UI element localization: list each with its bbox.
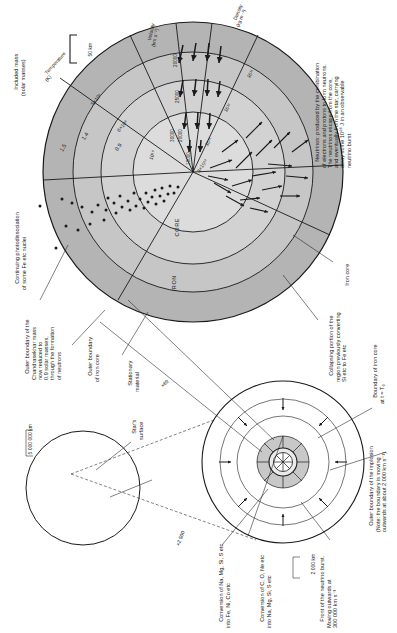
annotation-collapsing-portion: Collapsing portion of the region previou… — [322, 312, 353, 382]
annotation-outer-boundary-iron-core: Outer boundary of iron core — [81, 337, 106, 382]
label-stars-surface: Star's surface — [125, 420, 144, 440]
velocity-value-1: 25000 — [170, 90, 180, 108]
label-boundary-iron-core-t0: Boundary of iron core at t = T₀ — [366, 344, 385, 404]
star-scale-label: 5 000 000 km — [22, 424, 33, 460]
velocity-value-3: 20000 — [173, 129, 183, 147]
annotation-iron-core: Iron core — [338, 264, 357, 292]
label-conversion-na-mg-si: Conversion of Na, Mg, Si, S etc into Fe,… — [212, 544, 231, 628]
region-label-iron: IRON — [165, 275, 178, 300]
label-neutrino-burst-front: Front of the neutrino burst. Moving outw… — [313, 556, 338, 628]
region-label-core: CORE — [168, 218, 181, 245]
annotation-chandrasekhar: Outer boundary of the Chandrasekhar mass… — [18, 319, 68, 380]
annotation-photodissociation: Continuing photodissociation of some Fe … — [8, 212, 33, 290]
star-surface-circle — [26, 431, 140, 545]
scale-label-50km: 50 km — [82, 43, 99, 62]
velocity-value-0: 20000 — [168, 54, 178, 72]
label-conversion-c-o-ne: Conversion of C, O, Ne etc into Na, Mg, … — [253, 555, 272, 628]
label-stationary-material: Stationary material — [121, 361, 140, 392]
label-outer-boundary-implosion: Outer boundary of the implosion (Note: t… — [362, 446, 387, 532]
axis-label-included-mass: Included mass (solar masses) — [7, 54, 32, 96]
annotation-neutrinos: Neutrinos: produced by the combination o… — [308, 63, 358, 168]
figure-canvas: Included mass (solar masses) Temperature… — [0, 0, 397, 633]
mid-scale-bar-2000km — [293, 557, 300, 578]
axis-label-velocity: Velocity (km s⁻¹) — [140, 22, 167, 49]
